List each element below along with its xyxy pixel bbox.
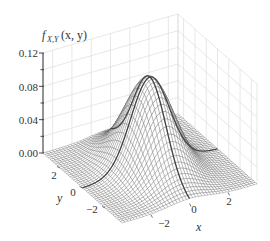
ztick-0.08: 0.08 [19,81,39,93]
ytick-2: 2 [51,169,57,181]
xtick-0: 0 [191,203,197,215]
ztick-0.04: 0.04 [19,114,39,126]
surface-plot: 0.12 0.08 0.04 0.00 f X,Y (x, y) 2 0 −2 … [0,0,270,241]
xtick-2: 2 [226,195,232,207]
x-tick [151,215,153,218]
ztick-0.12: 0.12 [19,47,38,59]
surface-mesh [43,76,257,223]
xtick-neg2: −2 [158,217,170,229]
ytick-0: 0 [70,186,76,198]
z-axis-title-args: (x, y) [61,28,87,42]
x-axis-title: x [195,220,202,234]
ztick-0.00: 0.00 [19,147,39,159]
z-axis-title: f X,Y (x, y) [42,28,87,44]
ytick-neg2: −2 [86,203,98,215]
y-axis-title: y [56,191,63,205]
z-axis-title-sub: X,Y [46,35,60,44]
